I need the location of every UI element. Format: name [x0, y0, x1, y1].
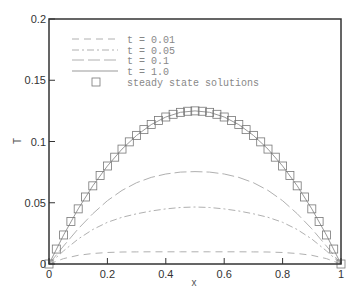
series-t0-01: [49, 252, 341, 264]
series-t0-05: [49, 207, 341, 264]
legend-entry: t = 0.01: [127, 35, 175, 46]
y-tick-label: 0.05: [25, 197, 46, 209]
x-tick-label: 1: [338, 268, 344, 280]
x-tick-label: 0.8: [275, 268, 290, 280]
y-axis-label: T: [12, 138, 23, 144]
x-tick-label: 0: [46, 268, 52, 280]
x-tick-label: 0.2: [100, 268, 115, 280]
legend-entry-steady-state: steady state solutions: [127, 78, 259, 89]
y-tick-label: 0.15: [25, 74, 46, 86]
x-tick-label: 0.6: [217, 268, 232, 280]
y-tick-label: 0.1: [31, 136, 46, 148]
x-axis-label: x: [192, 277, 197, 288]
line-chart: 00.20.40.60.81 00.050.10.150.2 x T t = 0…: [0, 0, 356, 300]
plot-frame: [49, 19, 341, 264]
series-t1-0: [49, 111, 341, 264]
legend: t = 0.01t = 0.05t = 0.1t = 1.0steady sta…: [72, 35, 259, 89]
y-tick-label: 0.2: [31, 13, 46, 25]
y-tick-label: 0: [40, 258, 46, 270]
steady-state-markers: [45, 107, 345, 268]
curves-layer: [49, 111, 341, 264]
legend-entry: t = 1.0: [127, 67, 169, 78]
y-axis-ticks: 00.050.10.150.2: [25, 13, 55, 270]
x-tick-label: 0.4: [158, 268, 173, 280]
legend-entry: t = 0.1: [127, 56, 169, 67]
